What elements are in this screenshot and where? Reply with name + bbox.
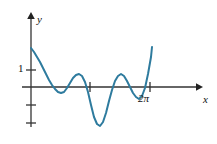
y-tick-label-1: 1 [18, 63, 24, 74]
graph-figure: y x 1 2π [0, 0, 217, 144]
x-tick-label-2pi: 2π [138, 93, 149, 104]
y-axis-arrow-icon [27, 12, 35, 19]
plot-canvas [0, 0, 217, 144]
x-axis-arrow-icon [196, 83, 203, 91]
x-axis-label: x [203, 94, 208, 105]
y-axis-label: y [37, 14, 42, 25]
